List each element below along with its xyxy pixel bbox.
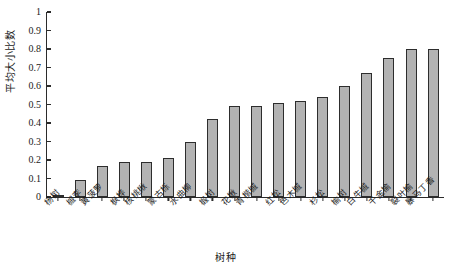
bar-item <box>201 12 223 197</box>
bar-item <box>334 12 356 197</box>
x-axis-label-slot: 色木槭 <box>289 199 311 247</box>
bar-chart-figure: 平均大小比数 00.10.20.30.40.50.60.70.80.91 杨树槭… <box>0 0 451 271</box>
x-axis-tick-labels: 杨树槭李黄菠萝枫桦核桃楸蒙古栎水曲柳椴树花楸青楷槭红松色木槭杉松榆树白牛槭千金榆… <box>46 199 444 247</box>
x-axis-label-slot: 椴树 <box>201 199 223 247</box>
bar <box>317 97 328 197</box>
bar-item <box>312 12 334 197</box>
y-axis-tick-label: 0.6 <box>29 79 42 92</box>
bar-item <box>246 12 268 197</box>
bar <box>273 103 284 197</box>
y-axis-tick-label: 0.1 <box>29 172 42 185</box>
y-axis-tick-label: 1 <box>36 5 41 18</box>
bar-series <box>47 12 444 197</box>
bar-item <box>135 12 157 197</box>
y-axis-tick-label: 0.2 <box>29 153 42 166</box>
bar-item <box>268 12 290 197</box>
bar <box>207 119 218 197</box>
x-axis-label-slot: 枫桦 <box>112 199 134 247</box>
plot-area: 00.10.20.30.40.50.60.70.80.91 <box>46 12 444 198</box>
bar-item <box>69 12 91 197</box>
x-axis-label-slot: 杨树 <box>46 199 68 247</box>
bar-item <box>422 12 444 197</box>
bar <box>361 73 372 197</box>
y-axis-tick-label: 0.7 <box>29 61 42 74</box>
y-axis-title: 平均大小比数 <box>6 6 16 116</box>
x-axis-label-slot: 暴马丁香 <box>422 199 444 247</box>
bar-item <box>91 12 113 197</box>
x-axis-label-slot: 杉松 <box>311 199 333 247</box>
bar <box>229 106 240 197</box>
y-axis-tick-label: 0.8 <box>29 42 42 55</box>
bar-item <box>113 12 135 197</box>
y-axis-tick-label: 0.4 <box>29 116 42 129</box>
bar-item <box>356 12 378 197</box>
bar-item <box>179 12 201 197</box>
x-axis-label-slot: 水曲柳 <box>179 199 201 247</box>
y-axis-tick-label: 0.3 <box>29 135 42 148</box>
bar-item <box>400 12 422 197</box>
bar-item <box>378 12 400 197</box>
bar-item <box>157 12 179 197</box>
x-axis-title: 树种 <box>0 249 451 264</box>
y-axis-tick-label: 0.9 <box>29 24 42 37</box>
y-axis-tick-label: 0 <box>36 190 41 203</box>
bar <box>339 86 350 197</box>
bar <box>383 58 394 197</box>
bar-item <box>224 12 246 197</box>
bar-item <box>47 12 69 197</box>
x-axis-label-slot: 青楷槭 <box>245 199 267 247</box>
bar <box>406 49 417 197</box>
y-axis-tick-label: 0.5 <box>29 98 42 111</box>
x-axis-label-slot: 黄菠萝 <box>90 199 112 247</box>
bar-item <box>290 12 312 197</box>
